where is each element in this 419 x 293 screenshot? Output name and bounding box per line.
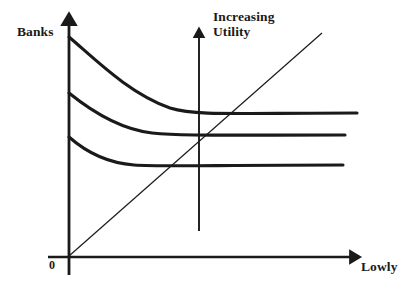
indifference-curve-low [69,137,343,166]
y-axis-label: Banks [17,24,54,39]
indifference-curve-high [69,37,357,114]
increasing-utility-label: IncreasingUtility [213,9,275,39]
figure-canvas [0,0,419,293]
increasing-utility-line-2: Utility [213,24,250,39]
increasing-utility-line-1: Increasing [213,9,275,24]
reference-line-45deg [69,33,322,256]
origin-label: 0 [49,259,55,272]
x-axis-label: Lowly [361,259,398,274]
indifference-curve-figure: Banks IncreasingUtility Lowly 0 [0,0,419,293]
